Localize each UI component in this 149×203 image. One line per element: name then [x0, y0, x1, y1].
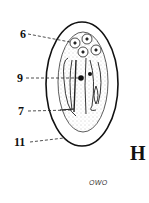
- dark-granule: [78, 75, 84, 81]
- label-6: 6: [20, 28, 26, 40]
- figure-caption: OWO: [89, 179, 107, 186]
- label-11: 11: [14, 136, 25, 148]
- dark-granule: [88, 72, 92, 76]
- label-7: 7: [18, 105, 24, 117]
- label-9: 9: [17, 72, 23, 84]
- panel-letter: H: [130, 142, 146, 165]
